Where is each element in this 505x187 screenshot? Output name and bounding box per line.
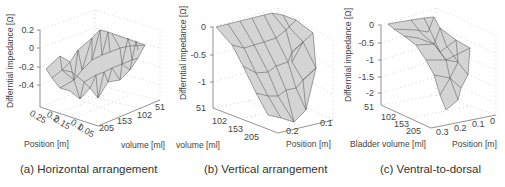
y-tick: 205	[99, 123, 114, 133]
surface-mesh	[46, 30, 145, 99]
z-tick: -1.5	[358, 72, 374, 82]
y-axis-label: volume [ml]	[121, 140, 165, 150]
surface-plot-b: 0 -0.5 -1 51 102 153 205 0.2 0.1 Differn…	[168, 0, 336, 160]
z-tick: 0	[29, 43, 34, 53]
y-tick: 153	[117, 116, 132, 126]
y-tick: 0.3	[436, 127, 449, 137]
surface-plot-a: 0.2 0 -0.2 -0.4 0.25 0.2 0.15 0.1 0.05 5…	[0, 0, 168, 160]
z-tick: -2	[366, 88, 374, 98]
caption-c: (c) Ventral-to-dorsal	[380, 163, 481, 175]
z-tick: 0.2	[21, 25, 34, 35]
surface-plot-c: 0 -0.5 -1 -1.5 -2 51 102 153 205 0.3 0.2…	[336, 0, 505, 160]
z-axis-label: Differntial impedance [Ω]	[343, 8, 353, 102]
y-tick: 0	[490, 116, 495, 126]
z-tick: -0.2	[18, 62, 34, 72]
x-tick: 205	[406, 126, 421, 136]
y-tick: 0.1	[472, 119, 485, 129]
z-tick: -0.4	[18, 80, 34, 90]
y-tick: 0.2	[454, 123, 467, 133]
z-tick: -0.5	[190, 50, 206, 60]
x-axis-label: Bladder volume [ml]	[350, 139, 426, 149]
caption-b: (b) Vertical arrangement	[204, 163, 327, 175]
x-tick: 205	[244, 132, 259, 142]
surface-mesh	[388, 17, 470, 110]
y-axis-label: Position [m]	[286, 139, 331, 149]
x-axis-label: Position [m]	[24, 139, 69, 149]
z-tick: 0	[201, 22, 206, 32]
y-tick: 102	[137, 110, 152, 120]
x-tick: 51	[196, 103, 206, 113]
z-axis-label: Differntial impedance [Ω]	[178, 6, 188, 100]
chart-panel-a: 0.2 0 -0.2 -0.4 0.25 0.2 0.15 0.1 0.05 5…	[0, 0, 168, 187]
z-tick: 0	[369, 20, 374, 30]
z-axis-label: Differntial impedance [Ω]	[5, 14, 15, 108]
chart-panel-b: 0 -0.5 -1 51 102 153 205 0.2 0.1 Differn…	[168, 0, 336, 187]
y-axis-label: Position [m]	[452, 139, 497, 149]
caption-a: (a) Horizontal arrangement	[20, 163, 157, 175]
y-tick: 0.1	[320, 118, 333, 128]
chart-panel-c: 0 -0.5 -1 -1.5 -2 51 102 153 205 0.3 0.2…	[336, 0, 505, 187]
x-axis-label: volume [ml]	[176, 140, 220, 150]
x-tick: 51	[364, 102, 374, 112]
surface-mesh	[216, 13, 316, 122]
z-tick: -0.5	[358, 38, 374, 48]
y-tick: 0.2	[286, 126, 299, 136]
x-tick: 153	[228, 124, 243, 134]
z-tick: -1	[366, 55, 374, 65]
z-tick: -1	[198, 77, 206, 87]
y-tick: 51	[155, 102, 165, 112]
x-tick: 102	[212, 116, 227, 126]
